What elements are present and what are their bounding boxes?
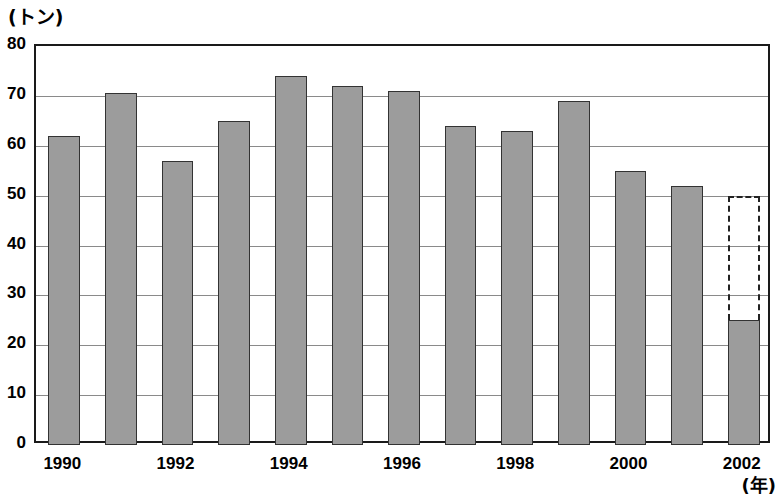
- bar: [501, 131, 533, 445]
- bar: [332, 86, 364, 445]
- bar: [105, 93, 137, 445]
- plot-area: [34, 44, 770, 443]
- x-axis-tick-label: 1998: [496, 454, 534, 474]
- x-axis-tick-label: 1990: [43, 454, 81, 474]
- bar: [275, 76, 307, 445]
- y-axis-tick-label: 40: [0, 235, 26, 252]
- projection-outline: [728, 196, 760, 321]
- y-axis-tick-label: 30: [0, 284, 26, 301]
- y-axis-tick-label: 50: [0, 185, 26, 202]
- y-axis-tick-label: 60: [0, 135, 26, 152]
- y-axis-tick-label: 70: [0, 85, 26, 102]
- y-axis-tick-label: 80: [0, 35, 26, 52]
- bar: [671, 186, 703, 445]
- bar: [162, 161, 194, 445]
- x-axis-tick-label: 1992: [157, 454, 195, 474]
- bar: [615, 171, 647, 445]
- bar: [728, 320, 760, 445]
- y-axis-tick-label: 20: [0, 334, 26, 351]
- x-axis-tick-label: 2000: [610, 454, 648, 474]
- y-axis-tick-label: 10: [0, 384, 26, 401]
- bars-layer: [36, 46, 768, 441]
- bar: [558, 101, 590, 445]
- bar: [388, 91, 420, 445]
- x-axis-tick-label: 1996: [383, 454, 421, 474]
- x-axis-unit-label: (年): [742, 471, 776, 497]
- bar: [218, 121, 250, 445]
- x-axis-tick-label: 1994: [270, 454, 308, 474]
- bar: [445, 126, 477, 445]
- y-axis-tick-label: 0: [0, 434, 26, 451]
- y-axis-unit-label: (トン): [8, 2, 63, 29]
- bar-chart: (トン) 01020304050607080 19901992199419961…: [0, 0, 782, 499]
- bar: [48, 136, 80, 445]
